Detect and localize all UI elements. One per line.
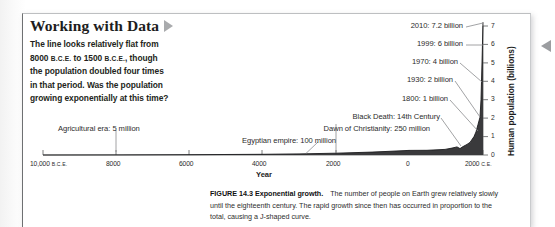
x-tick-label-0: 10,000 B.C.E.	[30, 160, 67, 167]
annotation-2010: 2010: 7.2 billion	[411, 21, 463, 30]
x-axis-title: Year	[256, 170, 272, 179]
annotation-1970: 1970: 4 billion	[412, 57, 458, 66]
annotation-christianity: Dawn of Christianity: 250 million	[324, 124, 430, 133]
y-tick-0: 0	[491, 151, 495, 158]
x-tick-label-1: 8000	[106, 160, 120, 167]
x-tick-0-main: 10,000	[30, 160, 50, 167]
annotation-1999: 1999: 6 billion	[417, 39, 463, 48]
leader-1970	[460, 63, 482, 82]
figure-title: Exponential growth.	[255, 189, 323, 198]
annotation-egypt: Egyptian empire: 100 million	[242, 136, 336, 145]
leader-1800	[450, 100, 478, 131]
y-tick-6: 6	[491, 40, 495, 47]
x-tick-label-2: 6000	[179, 160, 193, 167]
figure-number: FIGURE 14.3	[210, 189, 253, 198]
x-tick-label-4: 2000	[326, 160, 340, 167]
y-tick-4: 4	[491, 77, 495, 84]
annotation-agricultural: Agricultural era: 5 million	[58, 124, 140, 133]
figure-caption: FIGURE 14.3 Exponential growth.The numbe…	[210, 188, 506, 223]
y-tick-5: 5	[491, 59, 495, 66]
y-axis-ticks	[483, 26, 488, 155]
y-tick-7: 7	[491, 22, 495, 29]
exponential-growth-chart: 2010: 7.2 billion 1999: 6 billion 1970: …	[28, 18, 508, 178]
x-tick-label-6: 2000 C.E.	[465, 160, 492, 167]
annotation-1800: 1800: 1 billion	[402, 94, 448, 103]
x-tick-6-main: 2000	[465, 160, 479, 167]
figure-caption-text: The number of people on Earth grew relat…	[210, 189, 498, 221]
y-tick-1: 1	[491, 132, 495, 139]
annotation-black-death: Black Death: 14th Century	[353, 112, 440, 121]
x-tick-label-3: 4000	[252, 160, 266, 167]
leader-1930	[455, 81, 480, 117]
y-axis-title: Human population (billions)	[506, 46, 516, 156]
annotation-1930: 1930: 2 billion	[407, 75, 453, 84]
leader-2010	[466, 23, 483, 27]
triangle-left-icon	[541, 40, 551, 52]
x-tick-6-era: C.E.	[481, 161, 492, 167]
leader-black-death	[441, 118, 461, 146]
y-tick-2: 2	[491, 114, 495, 121]
x-tick-0-era: B.C.E.	[52, 161, 68, 167]
x-tick-label-5: 0	[406, 160, 410, 167]
y-tick-3: 3	[491, 95, 495, 102]
